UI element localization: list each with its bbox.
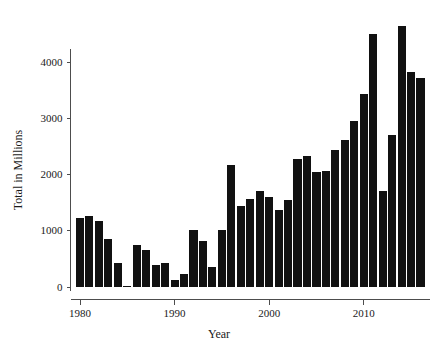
bar bbox=[322, 171, 330, 287]
bar bbox=[114, 263, 122, 287]
bar bbox=[95, 221, 103, 287]
y-tick-label: 1000 bbox=[41, 224, 64, 236]
bar bbox=[303, 156, 311, 287]
bar bbox=[407, 72, 415, 287]
bar bbox=[341, 140, 349, 287]
bar bbox=[208, 267, 216, 287]
x-axis-title: Year bbox=[208, 327, 230, 341]
bar bbox=[133, 245, 141, 287]
bar bbox=[161, 263, 169, 287]
x-tick-label: 2010 bbox=[353, 307, 376, 319]
bar bbox=[227, 165, 235, 287]
x-tick-label: 1990 bbox=[164, 307, 187, 319]
bar bbox=[284, 200, 292, 287]
bar bbox=[171, 280, 179, 287]
bar bbox=[189, 230, 197, 287]
bar bbox=[312, 172, 320, 287]
bar bbox=[218, 230, 226, 287]
bar bbox=[123, 286, 131, 287]
bar bbox=[180, 274, 188, 287]
bar bbox=[360, 94, 368, 287]
bar-chart: 01000200030004000 1980199020002010 Year … bbox=[0, 0, 438, 353]
chart-canvas: 01000200030004000 1980199020002010 Year … bbox=[0, 0, 438, 353]
bar bbox=[152, 265, 160, 287]
bar bbox=[331, 150, 339, 287]
bar bbox=[85, 216, 93, 287]
bar bbox=[246, 199, 254, 287]
bar bbox=[199, 241, 207, 287]
x-tick-label: 1980 bbox=[69, 307, 92, 319]
bar bbox=[275, 210, 283, 287]
bar bbox=[350, 121, 358, 287]
bar bbox=[237, 206, 245, 287]
bar bbox=[293, 159, 301, 287]
y-tick-label: 3000 bbox=[41, 112, 64, 124]
bar bbox=[256, 191, 264, 287]
x-tick-label: 2000 bbox=[258, 307, 281, 319]
bar bbox=[416, 78, 424, 287]
bar bbox=[142, 250, 150, 287]
bar bbox=[379, 191, 387, 287]
y-axis-title: Total in Millions bbox=[11, 129, 25, 210]
bar bbox=[76, 218, 84, 287]
y-tick-label: 0 bbox=[57, 281, 63, 293]
bar bbox=[265, 197, 273, 287]
y-tick-label: 4000 bbox=[41, 56, 64, 68]
bar bbox=[398, 26, 406, 287]
bar bbox=[388, 135, 396, 287]
bar bbox=[369, 34, 377, 287]
y-tick-label: 2000 bbox=[41, 168, 64, 180]
bar bbox=[104, 239, 112, 287]
